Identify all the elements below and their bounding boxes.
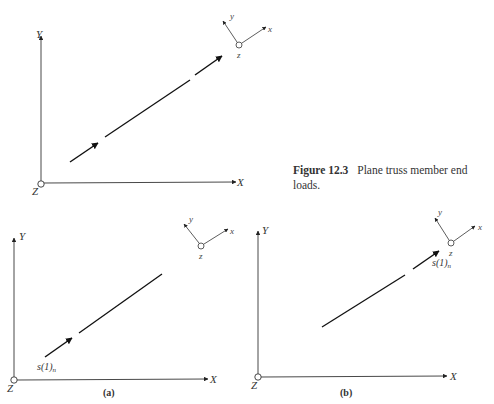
global-x-label: X	[209, 373, 218, 385]
global-z-label: Z	[32, 185, 39, 197]
member-line	[79, 274, 162, 333]
top-figure: Y X Z y x z	[32, 11, 272, 197]
global-x-label: X	[236, 176, 245, 188]
local-origin-node	[448, 240, 454, 246]
member-line	[322, 275, 405, 327]
local-x-axis	[204, 229, 228, 244]
local-axes: y x z	[223, 11, 272, 60]
global-x-label: X	[449, 370, 458, 382]
truss-diagram: Y X Z y x z Y X Z	[0, 0, 494, 404]
local-x-label: x	[229, 226, 234, 236]
local-x-axis	[454, 226, 475, 241]
figure-number: Figure 12.3	[293, 164, 348, 176]
local-z-label: z	[236, 50, 241, 60]
global-axes: Y X Z	[32, 28, 245, 197]
local-y-label: y	[188, 214, 193, 224]
global-z-label: Z	[251, 379, 258, 391]
end-load-arrow-2	[195, 56, 222, 75]
global-x-axis	[261, 376, 447, 377]
load-label: s(1)n	[432, 257, 452, 270]
origin-node	[38, 181, 44, 187]
local-origin-node	[236, 42, 242, 48]
member	[322, 251, 439, 327]
end-load-arrow	[45, 338, 72, 357]
local-axes: y x z	[435, 207, 482, 258]
global-y-label: Y	[262, 224, 270, 236]
member	[45, 274, 162, 357]
global-z-label: Z	[7, 382, 14, 394]
local-y-axis	[435, 218, 449, 240]
panel-label: (a)	[103, 387, 115, 399]
global-axes: Y X Z	[251, 224, 458, 391]
global-x-axis	[17, 379, 208, 380]
local-x-label: x	[477, 222, 482, 232]
local-axes: y x z	[184, 214, 234, 261]
local-y-axis	[223, 21, 237, 42]
load-label: s(1)n	[37, 361, 57, 374]
local-z-label: z	[448, 248, 453, 258]
panel-b: Y X Z s(1)n y x z (b)	[251, 207, 482, 399]
local-y-axis	[184, 224, 199, 243]
local-x-label: x	[267, 24, 272, 34]
member-line	[105, 80, 190, 137]
local-origin-node	[198, 243, 204, 249]
local-y-label: y	[437, 207, 442, 217]
global-x-axis	[44, 182, 236, 183]
end-load-arrow-1	[70, 143, 98, 162]
global-y-label: Y	[19, 230, 27, 242]
figure-caption: Figure 12.3 Plane truss member end loads…	[293, 163, 483, 193]
local-x-axis	[242, 27, 266, 43]
panel-label: (b)	[340, 387, 352, 399]
global-y-label: Y	[36, 28, 44, 40]
local-z-label: z	[198, 251, 203, 261]
panel-a: Y X Z s(1)n y x z (a)	[7, 214, 234, 399]
member	[70, 56, 222, 162]
local-y-label: y	[229, 11, 234, 21]
